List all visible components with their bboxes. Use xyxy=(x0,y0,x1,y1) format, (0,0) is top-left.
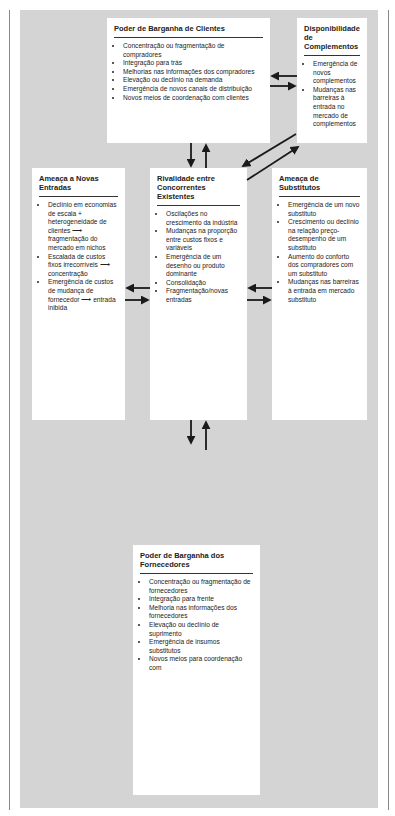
arrow-complementos-to-rivalidade xyxy=(243,134,296,166)
connector-arrows xyxy=(0,0,395,816)
arrow-rivalidade-to-complementos xyxy=(247,147,298,180)
